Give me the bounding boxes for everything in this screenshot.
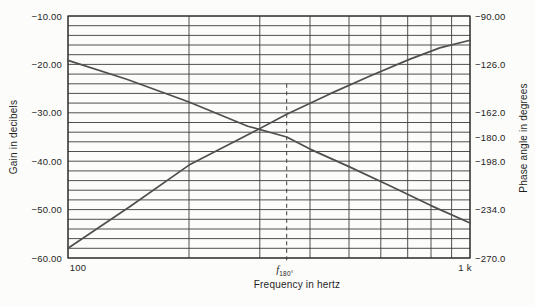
plot-area [0,0,535,307]
f180-subscript: 180° [279,270,294,277]
vertical-gridlines [68,16,470,258]
gain-axis-tick: −10.00 [0,11,62,22]
x-axis-title: Frequency in hertz [212,279,382,290]
left-axis-title: Gain in decibels [8,100,19,174]
gain-curve [68,40,470,248]
plot-border [68,16,470,258]
phase-axis-tick: −126.0 [475,59,506,70]
phase-axis-tick: −162.0 [475,107,506,118]
gain-axis-tick: −20.00 [0,59,62,70]
x-axis-tick-1k: 1 k [445,262,485,273]
gain-axis-tick: −60.00 [0,253,62,264]
horizontal-gridlines [68,16,470,258]
right-axis-title: Phase angle in degrees [518,83,529,192]
phase-axis-tick: −90.00 [475,11,506,22]
phase-axis-tick: −198.0 [475,156,506,167]
bode-plot-figure: −10.00−20.00−30.00−40.00−50.00−60.00−90.… [0,0,535,307]
phase-axis-tick: −234.0 [475,204,506,215]
x-axis-tick-100: 100 [58,262,98,273]
gain-axis-tick: −50.00 [0,204,62,215]
f180-annotation: f180° [268,263,302,277]
phase-axis-tick: −180.0 [475,132,506,143]
